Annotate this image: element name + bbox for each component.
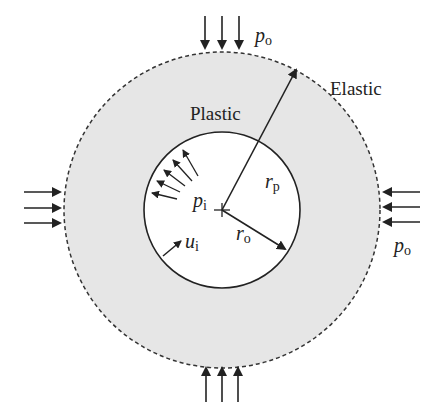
bottom-load-arrows (206, 368, 238, 402)
left-load-arrows (24, 192, 60, 223)
diagram-canvas: Plastic Elastic po po pi rp ro ui (0, 0, 441, 416)
elastic-label: Elastic (330, 78, 382, 99)
top-load-arrows (205, 16, 239, 48)
right-pressure-label: po (392, 234, 411, 258)
right-load-arrows (384, 192, 420, 222)
plastic-label: Plastic (190, 103, 241, 124)
top-pressure-label: po (253, 24, 272, 48)
